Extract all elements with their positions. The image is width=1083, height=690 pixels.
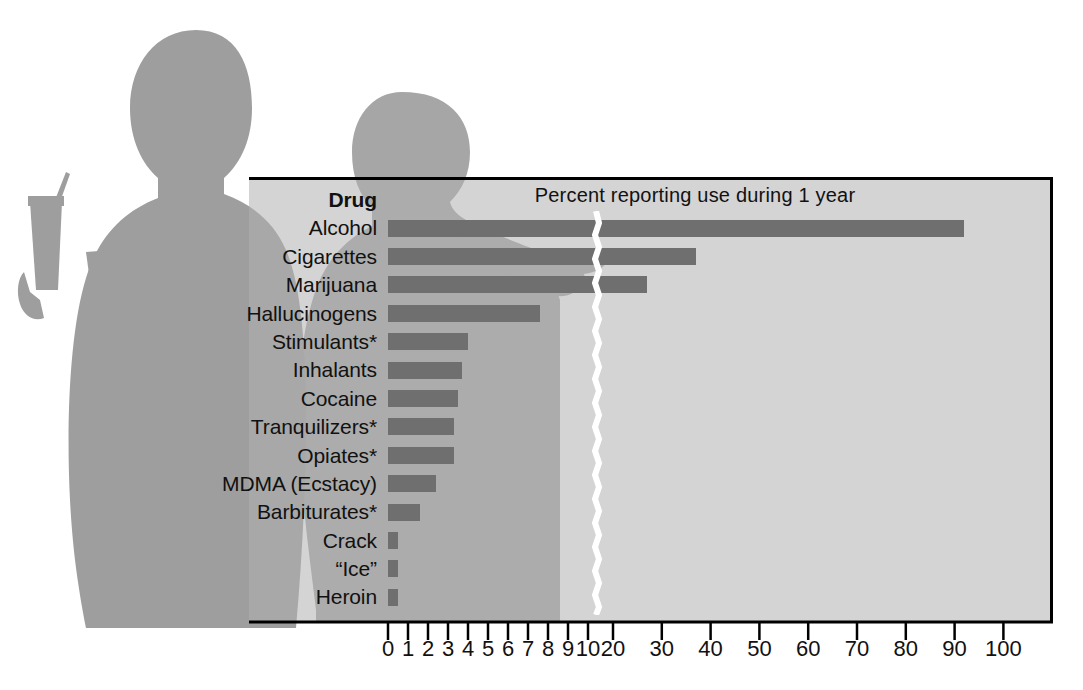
bar-row — [388, 271, 1068, 299]
bar — [388, 504, 420, 521]
x-tick-label: 40 — [698, 636, 722, 662]
category-label: Opiates* — [175, 442, 385, 470]
x-tick-label: 80 — [894, 636, 918, 662]
column-header-drug: Drug — [175, 186, 385, 214]
category-label: Marijuana — [175, 271, 385, 299]
bar — [388, 220, 964, 237]
bar — [388, 589, 398, 606]
x-tick-label: 100 — [985, 636, 1022, 662]
x-tick-label: 10 — [576, 636, 600, 662]
category-label: Barbiturates* — [175, 498, 385, 526]
bar-series — [388, 215, 1068, 612]
bar — [388, 305, 540, 322]
x-tick-label: 30 — [650, 636, 674, 662]
bar-row — [388, 442, 1068, 470]
x-tick-label: 20 — [601, 636, 625, 662]
bar — [388, 362, 462, 379]
bar-row — [388, 413, 1068, 441]
x-tick-label: 90 — [942, 636, 966, 662]
category-label: Cocaine — [175, 385, 385, 413]
bar — [388, 447, 454, 464]
x-tick-label: 2 — [422, 636, 434, 662]
bar-row — [388, 215, 1068, 243]
x-tick-label: 50 — [747, 636, 771, 662]
category-label: Heroin — [175, 583, 385, 611]
bar — [388, 475, 436, 492]
x-tick-label: 5 — [482, 636, 494, 662]
x-tick-label: 1 — [402, 636, 414, 662]
chart-title: Percent reporting use during 1 year — [480, 180, 910, 210]
category-label: Hallucinogens — [175, 300, 385, 328]
x-tick-label: 70 — [845, 636, 869, 662]
bar-row — [388, 243, 1068, 271]
category-label: Cigarettes — [175, 243, 385, 271]
bar — [388, 532, 398, 549]
axis-break-marker — [592, 211, 603, 615]
bar-row — [388, 385, 1068, 413]
bar-row — [388, 499, 1068, 527]
bar — [388, 418, 454, 435]
category-label: Alcohol — [175, 214, 385, 242]
category-label: Crack — [175, 527, 385, 555]
bar — [388, 276, 647, 293]
x-tick-label: 60 — [796, 636, 820, 662]
category-label: Inhalants — [175, 356, 385, 384]
category-label: Tranquilizers* — [175, 413, 385, 441]
bar-row — [388, 357, 1068, 385]
cup-icon — [18, 172, 70, 319]
x-tick-label: 4 — [462, 636, 474, 662]
bar-row — [388, 470, 1068, 498]
bar — [388, 333, 468, 350]
bar-row — [388, 584, 1068, 612]
category-label-column: Drug Alcohol Cigarettes Marijuana Halluc… — [175, 186, 385, 612]
x-tick-label: 8 — [542, 636, 554, 662]
bar-row — [388, 527, 1068, 555]
bar — [388, 390, 458, 407]
bar — [388, 248, 696, 265]
bar-row — [388, 555, 1068, 583]
bar-row — [388, 328, 1068, 356]
bar-row — [388, 300, 1068, 328]
category-label: “Ice” — [175, 555, 385, 583]
x-tick-label: 3 — [442, 636, 454, 662]
x-tick-label: 6 — [502, 636, 514, 662]
category-label: Stimulants* — [175, 328, 385, 356]
x-tick-label: 0 — [382, 636, 394, 662]
x-tick-label: 7 — [522, 636, 534, 662]
x-tick-label: 9 — [562, 636, 574, 662]
bar — [388, 560, 398, 577]
category-label: MDMA (Ecstacy) — [175, 470, 385, 498]
